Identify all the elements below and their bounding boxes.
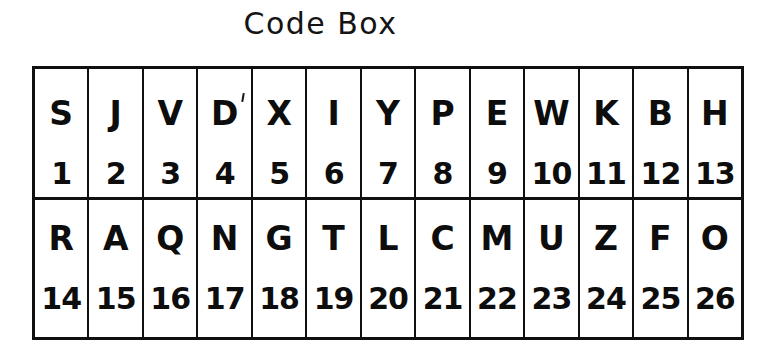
cell-letter: S [49, 97, 73, 130]
code-cell: P 8 [416, 69, 470, 197]
cell-letter: M [481, 222, 514, 255]
cell-number: 16 [150, 284, 190, 314]
cell-number: 13 [695, 159, 735, 189]
cell-number: 21 [423, 284, 463, 314]
code-cell: J 2 [89, 69, 143, 197]
cell-letter: J [110, 97, 122, 130]
scan-tick-mark [241, 93, 245, 102]
code-cell: D 4 [198, 69, 252, 197]
cell-number: 6 [324, 159, 344, 189]
code-box-table: S 1 J 2 V 3 D 4 X 5 I 6 Y 7 P 8 [32, 66, 744, 340]
code-cell: X 5 [253, 69, 307, 197]
cell-letter: Y [376, 97, 400, 130]
code-cell: R 14 [35, 200, 89, 337]
code-cell: Q 16 [144, 200, 198, 337]
cell-number: 23 [532, 284, 572, 314]
cell-letter: X [266, 97, 291, 130]
cell-letter: E [486, 97, 509, 130]
cell-number: 11 [586, 159, 626, 189]
code-cell: Y 7 [362, 69, 416, 197]
code-cell: N 17 [198, 200, 252, 337]
code-cell: S 1 [35, 69, 89, 197]
cell-number: 20 [368, 284, 408, 314]
cell-number: 24 [586, 284, 626, 314]
cell-letter: Z [594, 222, 618, 255]
code-cell: T 19 [307, 200, 361, 337]
cell-number: 18 [259, 284, 299, 314]
code-cell: B 12 [634, 69, 688, 197]
code-cell: L 20 [362, 200, 416, 337]
code-cell: K 11 [580, 69, 634, 197]
code-cell: V 3 [144, 69, 198, 197]
code-cell: C 21 [416, 200, 470, 337]
cell-number: 26 [695, 284, 735, 314]
cell-number: 4 [215, 159, 235, 189]
cell-letter: V [157, 97, 183, 130]
cell-letter: P [430, 97, 454, 130]
cell-number: 14 [41, 284, 81, 314]
cell-number: 15 [96, 284, 136, 314]
cell-number: 17 [205, 284, 245, 314]
cell-number: 3 [160, 159, 180, 189]
cell-letter: G [266, 222, 293, 255]
cell-number: 12 [641, 159, 681, 189]
cell-letter: I [327, 97, 339, 130]
cell-number: 25 [641, 284, 681, 314]
cell-number: 5 [269, 159, 289, 189]
code-cell: E 9 [471, 69, 525, 197]
code-cell: Z 24 [580, 200, 634, 337]
cell-letter: T [322, 222, 345, 255]
cell-letter: K [593, 97, 619, 130]
cell-letter: A [103, 222, 129, 255]
code-cell: W 10 [525, 69, 579, 197]
code-cell: O 26 [689, 200, 741, 337]
code-box-row-1: S 1 J 2 V 3 D 4 X 5 I 6 Y 7 P 8 [35, 69, 741, 200]
cell-letter: C [430, 222, 454, 255]
cell-number: 1 [51, 159, 71, 189]
cell-letter: H [701, 97, 729, 130]
cell-letter: W [533, 97, 569, 130]
cell-number: 9 [487, 159, 507, 189]
code-cell: H 13 [689, 69, 741, 197]
cell-number: 8 [433, 159, 453, 189]
code-cell: U 23 [525, 200, 579, 337]
cell-letter: D [211, 97, 238, 130]
cell-letter: B [648, 97, 673, 130]
code-cell: G 18 [253, 200, 307, 337]
code-cell: I 6 [307, 69, 361, 197]
cell-letter: L [378, 222, 399, 255]
cell-number: 7 [378, 159, 398, 189]
cell-number: 2 [106, 159, 126, 189]
cell-letter: R [49, 222, 74, 255]
cell-number: 10 [532, 159, 572, 189]
code-box-row-2: R 14 A 15 Q 16 N 17 G 18 T 19 L 20 C 21 [35, 200, 741, 337]
page-title: Code Box [0, 6, 775, 41]
cell-number: 19 [314, 284, 354, 314]
code-cell: A 15 [89, 200, 143, 337]
cell-letter: Q [156, 222, 184, 255]
code-cell: F 25 [634, 200, 688, 337]
code-cell: M 22 [471, 200, 525, 337]
cell-letter: U [538, 222, 565, 255]
cell-letter: O [701, 222, 729, 255]
cell-letter: N [211, 222, 239, 255]
cell-number: 22 [477, 284, 517, 314]
cell-letter: F [649, 222, 672, 255]
